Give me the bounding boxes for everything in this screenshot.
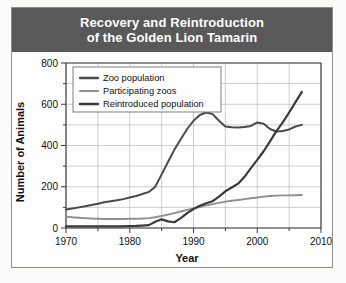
- x-tick-label: 1990: [182, 236, 205, 247]
- chart-title-bar: Recovery and Reintroduction of the Golde…: [12, 8, 332, 52]
- legend-label: Participating zoos: [103, 86, 177, 96]
- page-title: Recovery and Reintroduction of the Golde…: [80, 15, 264, 45]
- series-line: [66, 113, 302, 210]
- plot-area: 19701980199020002010 0200400600800 Zoo p…: [12, 52, 332, 267]
- x-tick-labels: 19701980199020002010: [55, 236, 332, 247]
- y-axis-title: Number of Animals: [14, 102, 26, 202]
- figure-container: Recovery and Reintroduction of the Golde…: [0, 0, 346, 283]
- y-tick-labels: 0200400600800: [41, 58, 58, 234]
- x-tick-label: 1970: [55, 236, 78, 247]
- x-axis-title: Year: [175, 252, 199, 264]
- line-chart: 19701980199020002010 0200400600800 Zoo p…: [12, 52, 332, 267]
- y-tick-label: 400: [41, 140, 58, 151]
- y-tick-label: 800: [41, 58, 58, 69]
- y-tick-label: 0: [52, 223, 58, 234]
- x-tick-label: 2000: [246, 236, 269, 247]
- chart-legend[interactable]: Zoo populationParticipating zoosReintrod…: [73, 67, 221, 112]
- legend-label: Reintroduced population: [103, 99, 204, 109]
- title-line-2: of the Golden Lion Tamarin: [80, 30, 264, 45]
- x-tick-label: 2010: [310, 236, 332, 247]
- legend-label: Zoo population: [103, 73, 165, 83]
- y-tick-label: 200: [41, 181, 58, 192]
- title-line-1: Recovery and Reintroduction: [80, 15, 264, 30]
- y-tick-label: 600: [41, 99, 58, 110]
- x-tick-label: 1980: [119, 236, 142, 247]
